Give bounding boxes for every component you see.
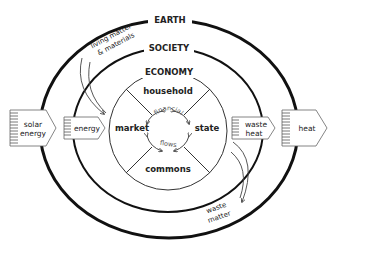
waste-heat-line2: heat [246, 129, 263, 138]
sector-market: market [115, 123, 149, 133]
financial-label: financial [152, 104, 185, 117]
sector-commons: commons [145, 164, 191, 174]
solar-label-line2: energy [20, 129, 47, 138]
waste-matter-output-arrows [231, 142, 248, 202]
sector-household: household [143, 86, 193, 96]
flows-label: flows [159, 139, 177, 149]
doughnut-economy-diagram: EARTH SOCIETY ECONOMY household market s… [0, 0, 377, 261]
sector-state: state [195, 123, 220, 133]
waste-heat-output: waste heat [232, 117, 275, 139]
energy-label: energy [74, 124, 101, 133]
solar-energy-input: solar energy [10, 110, 56, 146]
energy-input: energy [64, 117, 105, 139]
heat-output: heat [282, 110, 327, 146]
economy-label: ECONOMY [145, 67, 194, 77]
economy-ring: ECONOMY household market state commons [109, 66, 227, 190]
society-label: SOCIETY [149, 43, 190, 53]
curved-arrow-icon [80, 58, 104, 114]
solar-label-line1: solar [24, 120, 43, 129]
waste-heat-line1: waste [245, 120, 268, 129]
curved-arrow-icon [233, 142, 248, 202]
heat-label: heat [299, 124, 316, 133]
materials-input-arrows [80, 58, 106, 114]
earth-label: EARTH [154, 15, 185, 25]
